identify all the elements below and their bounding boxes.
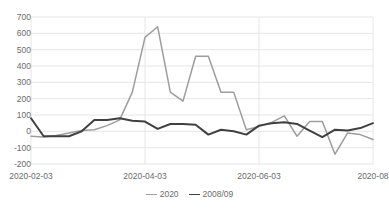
x-axis-tick-label: 2020-02-03 [9, 172, 52, 181]
x-axis-tick-label: 2020-04-03 [123, 172, 166, 181]
legend-line-icon [146, 194, 157, 195]
legend-line-icon [189, 194, 200, 195]
legend-item[interactable]: 2020 [146, 190, 179, 199]
legend-label: 2020 [160, 190, 179, 199]
x-axis-tick-label: 2020-06-03 [237, 172, 280, 181]
x-axis-tick-label: 2020-08 [357, 172, 388, 181]
legend-label: 2008/09 [203, 190, 234, 199]
legend-item[interactable]: 2008/09 [189, 190, 234, 199]
chart-legend: 20202008/09 [0, 190, 379, 199]
